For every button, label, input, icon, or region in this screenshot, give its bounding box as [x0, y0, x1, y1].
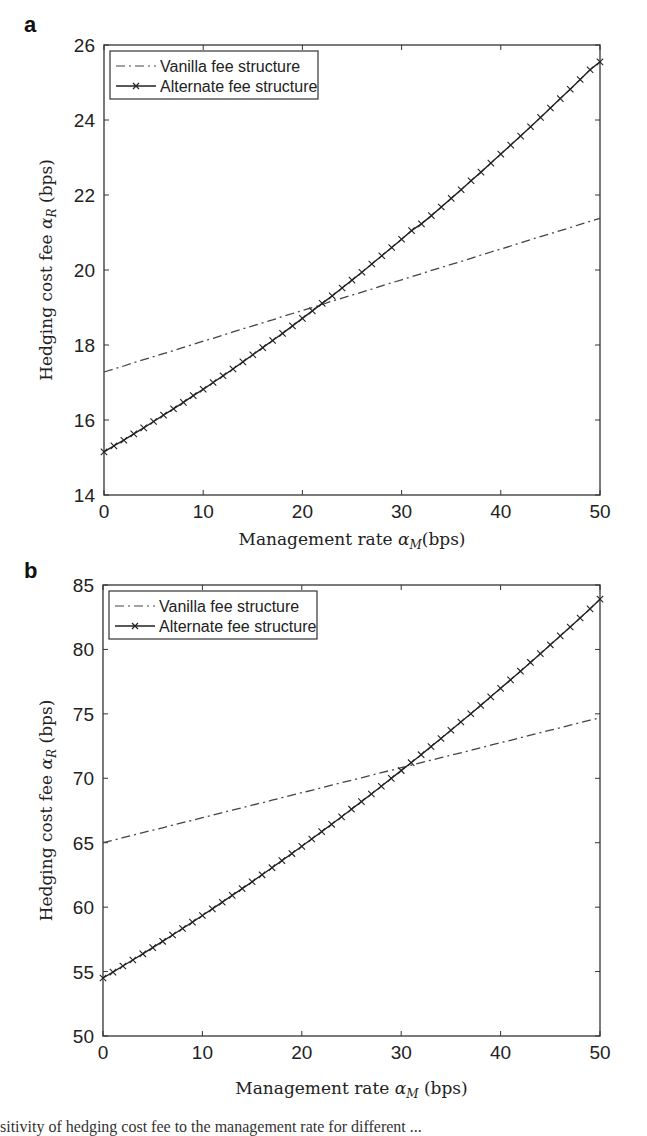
y-tick-label: 85	[73, 575, 94, 596]
x-marker-icon	[239, 885, 245, 891]
x-marker-icon	[170, 406, 176, 412]
x-marker-icon	[250, 352, 256, 358]
x-marker-icon	[199, 912, 205, 918]
x-tick-label: 10	[193, 501, 214, 522]
x-marker-icon	[498, 151, 504, 157]
x-marker-icon	[478, 702, 484, 708]
x-marker-icon	[408, 227, 414, 233]
x-marker-icon	[379, 253, 385, 259]
y-tick-label: 75	[73, 704, 94, 725]
y-tick-label: 22	[74, 185, 95, 206]
legend-label-vanilla: Vanilla fee structure	[159, 598, 299, 615]
x-tick-label: 0	[98, 1042, 109, 1063]
x-marker-icon	[150, 418, 156, 424]
x-axis-label: Management rate αM(bps)	[238, 529, 465, 552]
x-marker-icon	[378, 783, 384, 789]
x-tick-label: 0	[99, 501, 110, 522]
y-tick-label: 16	[74, 410, 95, 431]
x-marker-icon	[260, 344, 266, 350]
legend-label-alternate: Alternate fee structure	[159, 618, 317, 635]
x-marker-icon	[219, 899, 225, 905]
x-marker-icon	[458, 719, 464, 725]
x-marker-icon	[339, 285, 345, 291]
y-tick-label: 80	[73, 639, 94, 660]
x-marker-icon	[438, 735, 444, 741]
x-marker-icon	[259, 872, 265, 878]
x-marker-icon	[130, 957, 136, 963]
vanilla-series-line	[104, 218, 600, 372]
panel-letter: b	[24, 558, 37, 583]
x-tick-label: 40	[490, 1042, 511, 1063]
x-marker-icon	[140, 425, 146, 431]
x-marker-icon	[279, 330, 285, 336]
x-marker-icon	[358, 798, 364, 804]
x-marker-icon	[537, 650, 543, 656]
alternate-series-line	[104, 62, 600, 452]
x-marker-icon	[328, 821, 334, 827]
x-marker-icon	[189, 919, 195, 925]
x-marker-icon	[388, 244, 394, 250]
x-marker-icon	[318, 828, 324, 834]
x-marker-icon	[349, 277, 355, 283]
figure-caption: sitivity of hedging cost fee to the mana…	[0, 1118, 647, 1136]
x-tick-label: 40	[490, 501, 511, 522]
x-marker-icon	[368, 791, 374, 797]
x-marker-icon	[121, 437, 127, 443]
x-marker-icon	[438, 204, 444, 210]
x-marker-icon	[269, 865, 275, 871]
vanilla-series-line	[103, 718, 600, 843]
x-marker-icon	[179, 925, 185, 931]
y-tick-label: 14	[74, 485, 96, 506]
x-marker-icon	[131, 431, 137, 437]
x-marker-icon	[110, 969, 116, 975]
x-marker-icon	[348, 806, 354, 812]
x-marker-icon	[111, 443, 117, 449]
x-marker-icon	[269, 337, 275, 343]
x-tick-label: 20	[291, 1042, 312, 1063]
x-marker-icon	[159, 938, 165, 944]
x-tick-label: 30	[391, 1042, 412, 1063]
x-marker-icon	[567, 624, 573, 630]
x-marker-icon	[190, 392, 196, 398]
alternate-series-line	[103, 599, 600, 978]
x-tick-label: 30	[391, 501, 412, 522]
x-marker-icon	[289, 850, 295, 856]
x-marker-icon	[448, 727, 454, 733]
legend-label-alternate: Alternate fee structure	[160, 78, 318, 95]
x-marker-icon	[120, 963, 126, 969]
x-marker-icon	[428, 743, 434, 749]
x-marker-icon	[299, 315, 305, 321]
x-marker-icon	[577, 615, 583, 621]
x-marker-icon	[517, 668, 523, 674]
x-marker-icon	[240, 359, 246, 365]
x-marker-icon	[220, 373, 226, 379]
x-marker-icon	[329, 293, 335, 299]
y-tick-label: 60	[73, 897, 94, 918]
x-marker-icon	[359, 269, 365, 275]
x-marker-icon	[468, 178, 474, 184]
axes-box	[103, 585, 600, 1036]
y-axis-label: Hedging cost fee αR (bps)	[36, 700, 59, 922]
x-marker-icon	[140, 951, 146, 957]
x-tick-label: 20	[292, 501, 313, 522]
x-marker-icon	[289, 323, 295, 329]
x-marker-icon	[299, 843, 305, 849]
x-marker-icon	[487, 694, 493, 700]
y-tick-label: 18	[74, 335, 95, 356]
x-tick-label: 50	[589, 501, 610, 522]
y-tick-label: 20	[74, 260, 95, 281]
x-marker-icon	[508, 142, 514, 148]
x-marker-icon	[537, 114, 543, 120]
x-marker-icon	[497, 685, 503, 691]
x-marker-icon	[418, 221, 424, 227]
y-tick-label: 24	[74, 110, 96, 131]
x-marker-icon	[547, 105, 553, 111]
y-tick-label: 65	[73, 833, 94, 854]
x-marker-icon	[249, 879, 255, 885]
x-marker-icon	[169, 932, 175, 938]
x-marker-icon	[587, 606, 593, 612]
panel-b: b010203040505055606570758085Management r…	[24, 558, 611, 1101]
x-marker-icon	[418, 752, 424, 758]
x-marker-icon	[488, 160, 494, 166]
